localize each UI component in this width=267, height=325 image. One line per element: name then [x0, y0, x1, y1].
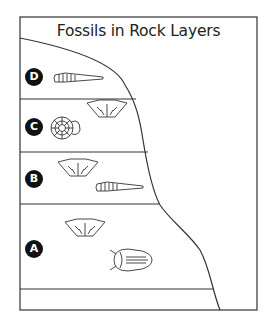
- brachiopod-fossil-icon: [87, 100, 127, 117]
- diagram-canvas: [0, 0, 267, 325]
- layer-label-b: B: [25, 170, 43, 188]
- layer-label-d: D: [25, 68, 43, 86]
- cone-shell-fossil-icon: [54, 73, 103, 82]
- brachiopod-fossil-icon: [65, 219, 105, 236]
- trilobite-fossil-icon: [110, 249, 152, 271]
- diagram-title: Fossils in Rock Layers: [20, 22, 257, 40]
- brachiopod-fossil-icon: [58, 159, 98, 176]
- cone-shell-fossil-icon: [96, 182, 143, 191]
- layer-label-a: A: [25, 240, 43, 258]
- layer-label-c: C: [25, 118, 43, 136]
- diagram-frame: [20, 17, 257, 310]
- ammonite-fossil-icon: [51, 117, 80, 139]
